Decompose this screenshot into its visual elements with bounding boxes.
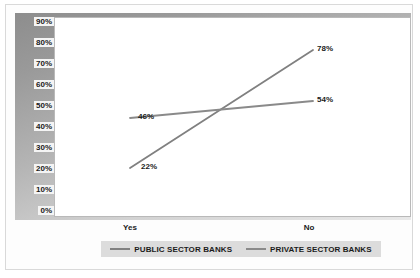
y-axis: 90% 80% 70% 60% 50% 40% 30% 20% 10% 0% (6, 5, 54, 278)
y-tick-90: 90% (8, 17, 54, 27)
legend-item-private-sector-banks[interactable]: PRIVATE SECTOR BANKS (246, 245, 372, 254)
y-tick-label: 20% (34, 164, 54, 173)
y-tick-30: 30% (8, 143, 54, 153)
chart-legend: PUBLIC SECTOR BANKS PRIVATE SECTOR BANKS (101, 241, 381, 257)
y-tick-10: 10% (8, 185, 54, 195)
point-label-public-yes: 22% (141, 162, 157, 171)
y-tick-0: 0% (8, 206, 54, 216)
legend-label: PRIVATE SECTOR BANKS (270, 245, 372, 254)
y-tick-label: 60% (34, 80, 54, 89)
point-label-public-no: 78% (317, 44, 333, 53)
y-tick-40: 40% (8, 122, 54, 132)
x-tick-yes: Yes (90, 223, 170, 232)
y-tick-label: 40% (34, 122, 54, 131)
legend-label: PUBLIC SECTOR BANKS (134, 245, 232, 254)
y-tick-label: 0% (38, 206, 54, 215)
y-tick-50: 50% (8, 101, 54, 111)
point-label-private-yes: 46% (138, 112, 154, 121)
y-tick-label: 30% (34, 143, 54, 152)
legend-line-swatch-icon (246, 248, 266, 250)
legend-item-public-sector-banks[interactable]: PUBLIC SECTOR BANKS (110, 245, 232, 254)
y-tick-label: 50% (34, 101, 54, 110)
y-tick-20: 20% (8, 164, 54, 174)
plot-area (54, 17, 411, 217)
point-label-private-no: 54% (317, 95, 333, 104)
x-tick-no: No (269, 223, 349, 232)
y-tick-label: 10% (34, 185, 54, 194)
legend-line-swatch-icon (110, 248, 130, 250)
y-tick-60: 60% (8, 80, 54, 90)
chart-frame: 90% 80% 70% 60% 50% 40% 30% 20% 10% 0% 2… (5, 4, 413, 270)
y-tick-80: 80% (8, 38, 54, 48)
y-tick-70: 70% (8, 59, 54, 69)
y-tick-label: 90% (34, 17, 54, 26)
y-tick-label: 70% (34, 59, 54, 68)
y-tick-label: 80% (34, 38, 54, 47)
